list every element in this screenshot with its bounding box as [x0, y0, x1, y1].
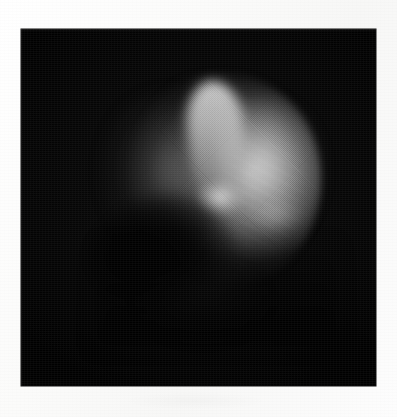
scanned-page: Single rounded organ-shaped region of tr…: [0, 0, 397, 417]
tracer-uptake-region: [21, 29, 376, 386]
uptake-secondary-hotspot: [247, 197, 303, 231]
paper-smudge: [120, 392, 270, 410]
scintigram-image-panel: [21, 29, 376, 386]
uptake-inferior-falloff: [95, 237, 339, 347]
